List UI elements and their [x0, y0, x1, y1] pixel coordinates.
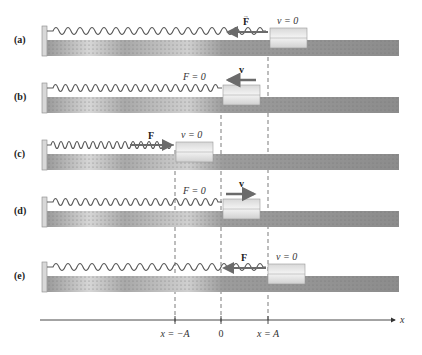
row-label: (e) [14, 270, 25, 282]
state-text: F = 0 [182, 71, 206, 82]
tick-label-pos-A: x = A [256, 328, 280, 339]
wall [42, 83, 47, 113]
tick-label-neg-A: x = −A [159, 328, 190, 339]
state-text: v = 0 [276, 251, 297, 262]
shm-diagram: (a) F → v = 0 (b) v F = 0 (c) F v = 0 (d [0, 0, 422, 355]
block [176, 142, 213, 162]
row-c: (c) F v = 0 [14, 129, 399, 170]
block [268, 264, 305, 284]
vector-label: F [241, 252, 247, 263]
row-a: (a) F → v = 0 [14, 13, 399, 56]
block [270, 28, 307, 48]
row-label: (d) [14, 205, 26, 217]
wall [42, 140, 47, 170]
block [223, 199, 260, 219]
row-label: (a) [14, 34, 26, 46]
tick-label-zero: 0 [219, 328, 224, 339]
row-e: (e) F v = 0 [14, 251, 399, 292]
vector-overarrow: → [243, 13, 249, 19]
row-label: (c) [14, 148, 25, 160]
spring [47, 199, 222, 206]
wall [42, 26, 47, 56]
state-text: v = 0 [277, 15, 298, 26]
x-axis: x x = −A 0 x = A [40, 314, 405, 339]
wall [42, 262, 47, 292]
axis-label: x [399, 314, 405, 325]
state-text: v = 0 [181, 129, 202, 140]
state-text: F = 0 [182, 185, 206, 196]
row-label: (b) [14, 91, 26, 103]
spring [47, 85, 222, 92]
wall [42, 197, 47, 227]
row-b: (b) v F = 0 [14, 64, 399, 113]
row-d: (d) v F = 0 [14, 178, 399, 227]
vector-label: v [239, 178, 244, 189]
vector-label: v [239, 64, 244, 75]
vector-label: F [148, 130, 154, 141]
block [223, 85, 260, 105]
